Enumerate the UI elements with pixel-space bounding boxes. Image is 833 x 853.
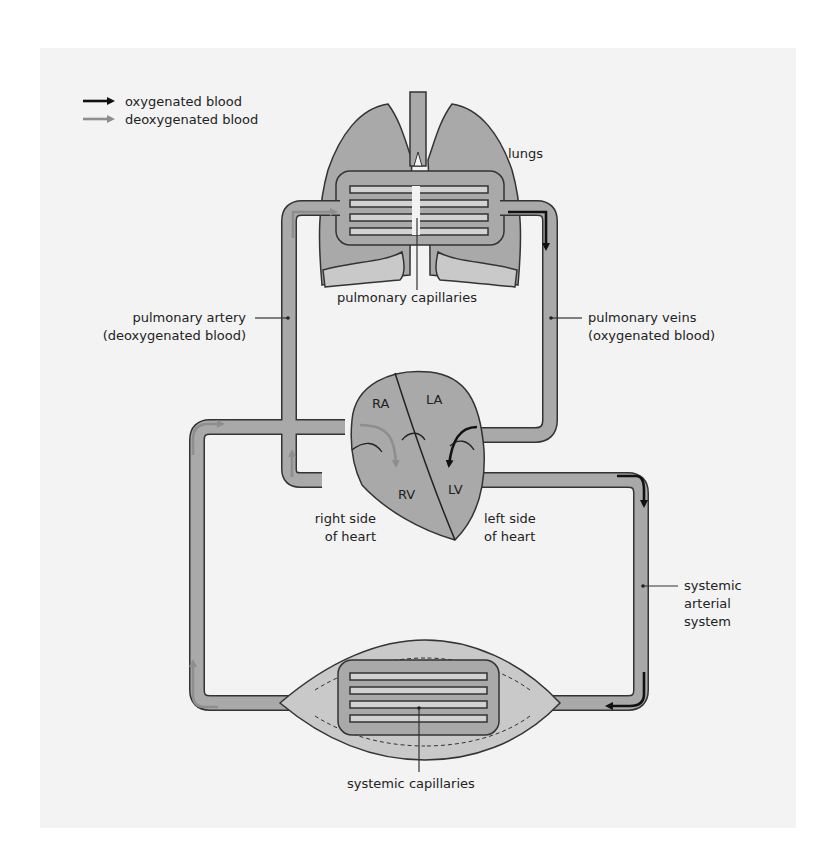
systemic-capillary	[350, 687, 487, 694]
pulmonary-artery-label-line1: pulmonary artery	[132, 310, 246, 325]
alveolar-gap	[412, 186, 420, 235]
chamber-la: LA	[426, 392, 443, 407]
leader-dot	[286, 316, 290, 320]
systemic-arterial-label-line2: arterial	[684, 596, 731, 611]
legend-deoxygenated-label: deoxygenated blood	[125, 112, 258, 127]
right-side-label-line2: of heart	[325, 529, 376, 544]
chamber-ra: RA	[372, 396, 390, 411]
chamber-rv: RV	[398, 487, 415, 502]
left-side-label-line2: of heart	[484, 529, 535, 544]
pulmonary-veins-label-line1: pulmonary veins	[588, 310, 697, 325]
left-side-label-line1: left side	[484, 511, 536, 526]
systemic-veins-outline	[197, 427, 345, 703]
chamber-lv: LV	[448, 482, 463, 497]
systemic-arterial-label-line3: system	[684, 614, 731, 629]
systemic-veins	[197, 427, 345, 703]
circulation-diagram: oxygenated blood deoxygenated blood	[0, 0, 833, 853]
leader-dot	[549, 316, 553, 320]
pulmonary-capillary-bed	[336, 171, 504, 245]
leader-dot	[417, 706, 421, 710]
leader-dot	[641, 584, 645, 588]
right-side-label-line1: right side	[315, 511, 376, 526]
systemic-capillary	[350, 673, 487, 680]
legend: oxygenated blood deoxygenated blood	[83, 94, 258, 127]
systemic-arterial-label-line1: systemic	[684, 578, 742, 593]
systemic-capillary-bed	[280, 640, 560, 760]
systemic-capillaries-label: systemic capillaries	[347, 776, 475, 791]
pulmonary-veins-label-line2: (oxygenated blood)	[588, 328, 715, 343]
pulmonary-artery-label-line2: (deoxygenated blood)	[103, 328, 246, 343]
legend-oxygenated-label: oxygenated blood	[125, 94, 242, 109]
lungs-label: lungs	[508, 146, 543, 161]
pulmonary-capillaries-label: pulmonary capillaries	[337, 290, 477, 305]
